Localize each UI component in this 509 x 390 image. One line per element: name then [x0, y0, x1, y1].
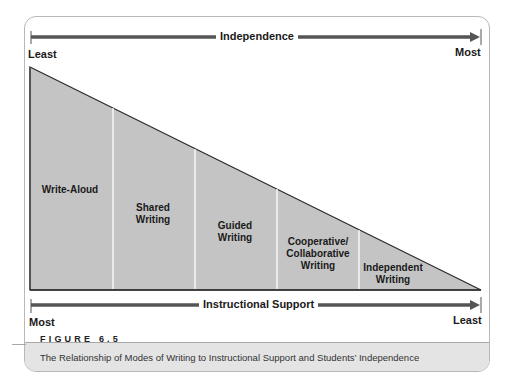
instructional-support-title: Instructional Support [199, 298, 318, 311]
segment-independent-writing: Independent Writing [363, 262, 422, 286]
independence-most-label: Most [455, 46, 481, 59]
segment-guided-writing: Guided Writing [218, 220, 252, 244]
support-triangle [30, 67, 481, 290]
independence-least-label: Least [28, 48, 57, 61]
segment-shared-writing: Shared Writing [136, 202, 170, 226]
support-least-label: Least [453, 314, 482, 327]
segment-write-aloud: Write-Aloud [42, 184, 98, 196]
segment-cooperative-writing: Cooperative/ Collaborative Writing [286, 236, 349, 272]
support-most-label: Most [29, 316, 55, 329]
figure-caption: The Relationship of Modes of Writing to … [40, 352, 419, 363]
independence-title: Independence [216, 30, 298, 43]
figure-number: FIGURE 6.5 [40, 334, 121, 344]
